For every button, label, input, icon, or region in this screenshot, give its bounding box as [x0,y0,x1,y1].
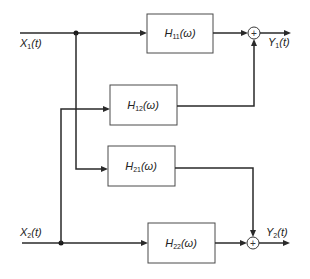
h22-to-sum2-wire [215,240,247,246]
h12-block: H12(ω) [110,85,177,125]
x2-input-wire [22,240,148,246]
h21-block: H21(ω) [108,146,175,186]
y1-label: Y1(t) [268,36,290,49]
x1-to-h21-wire [76,33,108,172]
y2-output-wire [259,240,290,246]
y2-label: Y2(t) [266,226,288,239]
sum1-junction: + [248,27,260,39]
h11-block: H11(ω) [147,14,213,53]
h12-label: H12(ω) [127,99,159,112]
x2-label: X2(t) [19,226,42,239]
h11-label: H11(ω) [164,27,195,40]
x2-to-h12-wire [61,106,110,243]
h22-block: H22(ω) [148,223,215,263]
sum1-plus-icon: + [251,28,257,39]
x1-input-wire [20,30,147,36]
mimo-block-diagram: X1(t) X2(t) H11(ω) H12(ω) H21(ω) H22(ω) [0,0,310,279]
h11-to-sum1-wire [213,30,248,36]
x1-label: X1(t) [19,37,42,50]
h21-label: H21(ω) [125,160,157,173]
h22-label: H22(ω) [165,237,197,250]
sum2-plus-icon: + [250,238,256,249]
sum2-junction: + [247,237,259,249]
